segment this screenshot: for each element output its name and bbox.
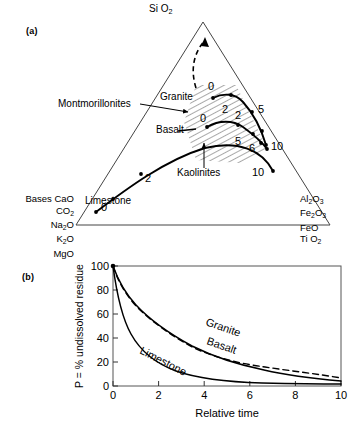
limestone-point-2: [139, 172, 143, 176]
basalt-point-0: [205, 125, 209, 129]
left-corner-line-5: MgO: [6, 248, 74, 260]
limestone-point-10: [271, 169, 275, 173]
ternary-label-granite: Granite: [160, 91, 193, 102]
ternary-label-basalt: Basalt: [156, 124, 184, 135]
left-corner-line-3: Na2O: [6, 219, 74, 233]
curve-label-basalt: Basalt: [205, 335, 238, 356]
granite-tick-5: 5: [258, 103, 264, 115]
curve-origin-marker: [111, 264, 116, 269]
x-tick-10: 10: [335, 389, 347, 401]
basalt-tick-5: 5: [235, 135, 241, 147]
silica-enrichment-arrow: [193, 37, 209, 88]
chart-y-axis-title: P = % undissolved residue: [73, 264, 85, 388]
left-corner-line-2: CO2: [6, 205, 74, 219]
x-tick-4: 4: [201, 389, 207, 401]
granite-point-2: [229, 93, 233, 97]
granite-point-5: [250, 110, 254, 114]
basalt-point-6: [259, 141, 263, 145]
x-tick-0: 0: [110, 389, 116, 401]
right-corner-line-2: Fe2O3: [300, 207, 360, 221]
y-tick-20: 20: [97, 356, 109, 368]
silica-arrow-head: [201, 37, 209, 47]
x-tick-6: 6: [247, 389, 253, 401]
chart-y-ticklabels: 100 80 60 40 20 0: [91, 260, 109, 392]
right-corner-line-4: Ti O2: [300, 233, 360, 247]
x-tick-8: 8: [292, 389, 298, 401]
limestone-point-0: [94, 210, 98, 214]
ternary-label-kaolinites: Kaolinites: [177, 167, 220, 178]
basalt-tick-2: 2: [235, 109, 241, 121]
ternary-left-corner-labels: Bases CaO CO2 Na2O K2O MgO: [6, 193, 74, 259]
ternary-label-montmorillonites: Montmorillonites: [58, 98, 131, 109]
residue-chart: 100 80 60 40 20 0 0 2 4 6 8 10 Relative …: [73, 260, 347, 419]
granite-tick-0: 0: [208, 80, 214, 92]
ternary-label-limestone: Limestone: [85, 195, 131, 206]
y-tick-60: 60: [97, 308, 109, 320]
limestone-tick-2: 2: [145, 172, 151, 184]
y-tick-100: 100: [91, 260, 109, 272]
basalt-tick-0: 0: [200, 112, 206, 124]
y-tick-80: 80: [97, 284, 109, 296]
limestone-tick-10: 10: [252, 166, 264, 178]
ternary-right-corner-labels: Al2O3 Fe2O3 FeO Ti O2: [300, 193, 360, 248]
chart-x-axis-title: Relative time: [195, 407, 259, 419]
granite-tick-2: 2: [222, 103, 228, 115]
granite-point-0: [211, 96, 215, 100]
curve-label-limestone: Limestone: [138, 344, 189, 378]
y-tick-0: 0: [103, 380, 109, 392]
x-tick-2: 2: [156, 389, 162, 401]
granite-tick-10: 10: [271, 140, 283, 152]
granite-point-8: [260, 129, 264, 133]
basalt-point-2: [236, 123, 240, 127]
basalt-point-5: [251, 132, 255, 136]
basalt-point-10: [265, 147, 269, 151]
right-corner-line-3: FeO: [300, 222, 360, 234]
basalt-tick-6: 6: [249, 142, 255, 154]
silica-arrow-path: [193, 40, 205, 88]
left-corner-line-1: Bases CaO: [6, 193, 74, 205]
left-corner-line-4: K2O: [6, 233, 74, 247]
chart-x-ticklabels: 0 2 4 6 8 10: [110, 389, 347, 401]
right-corner-line-1: Al2O3: [300, 193, 360, 207]
y-tick-40: 40: [97, 332, 109, 344]
ternary-apex-label: Si O2: [149, 3, 172, 16]
